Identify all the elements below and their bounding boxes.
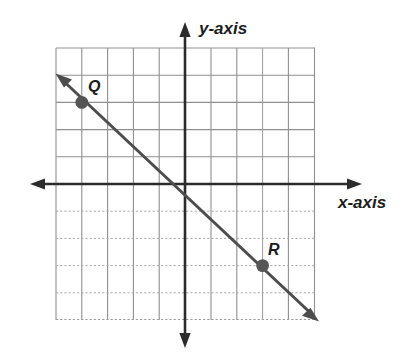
x-axis-label: x-axis <box>337 193 386 212</box>
point-r-label: R <box>268 241 280 258</box>
point-r-marker[interactable] <box>256 259 269 272</box>
y-axis-label: y-axis <box>198 19 247 38</box>
point-q-label: Q <box>88 78 101 95</box>
coordinate-plane-figure: Q R y-axis x-axis <box>0 0 411 360</box>
point-q-marker[interactable] <box>75 96 88 109</box>
figure-canvas: Q R y-axis x-axis <box>0 0 411 360</box>
